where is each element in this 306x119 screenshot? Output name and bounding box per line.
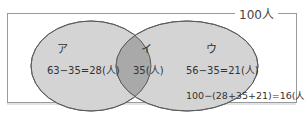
set-a-expression: 63−35=28(人) [47,62,120,77]
set-c-expression: 56−35=21(人) [186,62,259,77]
outside-expression: 100−(28+35+21)=16(人) [186,88,306,102]
intersection-expression: 35(人) [133,62,164,77]
intersection-label: イ [141,40,152,56]
total-label: 100人 [235,5,278,22]
set-c-label: ウ [206,40,217,56]
set-a-label: ア [57,40,68,56]
